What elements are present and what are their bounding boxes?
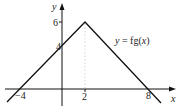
tick-label-x-neg4: −4 — [15, 90, 26, 101]
x-axis-arrow-icon — [169, 87, 176, 92]
tick-label-y-4: 4 — [56, 41, 61, 52]
y-axis-arrow-icon — [60, 3, 65, 10]
chart-canvas: y x 6 4 −4 2 8 y = fg(x) — [0, 0, 180, 106]
tick-label-x-8: 8 — [146, 90, 151, 101]
tick-label-y-6: 6 — [53, 17, 58, 28]
function-label: y = fg(x) — [114, 35, 150, 47]
tick-label-x-2: 2 — [82, 91, 87, 102]
y-axis-label: y — [51, 1, 57, 12]
x-axis-label: x — [170, 93, 176, 104]
